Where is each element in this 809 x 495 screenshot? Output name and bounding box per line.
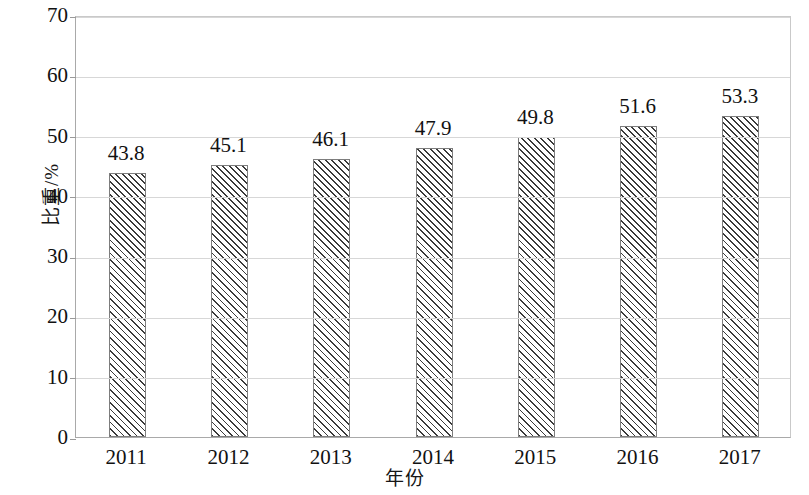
bar [211, 165, 248, 437]
x-axis-tick-label: 2012 [178, 447, 278, 468]
y-axis-tick-mark [70, 258, 76, 259]
bar-chart: 比重/% 010203040506070 43.845.146.147.949.… [0, 0, 809, 495]
bar [722, 116, 759, 437]
y-axis-tick-label: 60 [24, 65, 68, 86]
x-axis-title: 年份 [0, 469, 809, 488]
x-axis-tick-label: 2016 [588, 447, 688, 468]
bar-value-label: 49.8 [490, 107, 580, 128]
x-axis-tick-label: 2015 [485, 447, 585, 468]
y-axis-tick-label: 0 [24, 427, 68, 448]
y-axis-tick-label: 40 [24, 186, 68, 207]
y-axis-tick-mark [70, 77, 76, 78]
bars-layer [76, 17, 790, 437]
bar-value-label: 46.1 [286, 129, 376, 150]
bar [313, 159, 350, 437]
y-axis-tick-mark [70, 17, 76, 18]
x-axis-tick-label: 2011 [76, 447, 176, 468]
y-axis-tick-mark [70, 197, 76, 198]
y-axis-tick-labels: 010203040506070 [18, 0, 68, 495]
y-axis-tick-label: 50 [24, 126, 68, 147]
bar-value-label: 53.3 [695, 86, 785, 107]
x-axis-tick-label: 2014 [383, 447, 483, 468]
gridline [76, 258, 790, 259]
bar [518, 137, 555, 437]
y-axis-tick-label: 30 [24, 246, 68, 267]
y-axis-tick-label: 10 [24, 367, 68, 388]
gridline [76, 17, 790, 18]
y-axis-tick-mark [70, 378, 76, 379]
bar [416, 148, 453, 437]
plot-area [75, 16, 791, 438]
bar-value-label: 45.1 [183, 135, 273, 156]
y-axis-tick-mark [70, 137, 76, 138]
bar [620, 126, 657, 437]
bar-value-label: 47.9 [388, 118, 478, 139]
gridline [76, 378, 790, 379]
x-axis-tick-label: 2017 [690, 447, 790, 468]
x-axis-tick-label: 2013 [281, 447, 381, 468]
bar [109, 173, 146, 437]
gridline [76, 197, 790, 198]
bar-value-label: 43.8 [81, 143, 171, 164]
y-axis-tick-mark [70, 439, 76, 440]
y-axis-tick-label: 70 [24, 5, 68, 26]
bar-value-label: 51.6 [593, 96, 683, 117]
gridline [76, 77, 790, 78]
y-axis-tick-mark [70, 318, 76, 319]
y-axis-tick-label: 20 [24, 306, 68, 327]
gridline [76, 318, 790, 319]
